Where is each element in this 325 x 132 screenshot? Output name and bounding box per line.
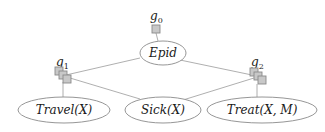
node-travel-label: Travel(X) — [36, 103, 93, 117]
factor-square — [258, 76, 266, 84]
factor-g0: g0 — [150, 9, 163, 33]
factor-g1: g1 — [55, 55, 71, 83]
edge-epid-g2 — [180, 60, 252, 75]
node-travel: Travel(X) — [18, 97, 110, 123]
edge-g0-epid — [156, 33, 158, 41]
factor-square — [63, 75, 71, 83]
node-sick: Sick(X) — [125, 97, 201, 123]
factor-square — [152, 25, 160, 33]
factor-g2: g2 — [250, 55, 266, 84]
node-epid: Epid — [140, 41, 186, 65]
edge-g1-sick — [70, 78, 140, 99]
node-treat: Treat(X, M) — [207, 97, 317, 123]
node-epid-label: Epid — [148, 46, 177, 60]
factor-g0-label: g0 — [150, 9, 163, 25]
edge-epid-g1 — [66, 58, 140, 75]
factor-graph-diagram: g0 g1 g2 Epid Travel(X) Sick(X) Treat(X, — [0, 0, 325, 132]
edge-g2-sick — [183, 78, 254, 100]
node-treat-label: Treat(X, M) — [227, 103, 298, 117]
node-sick-label: Sick(X) — [141, 103, 185, 117]
